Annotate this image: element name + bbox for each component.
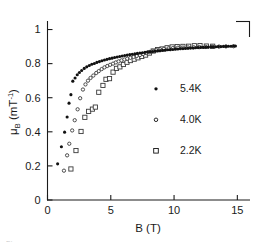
data-point xyxy=(84,83,87,86)
caption-strip: Figure xyxy=(6,232,156,242)
data-point xyxy=(68,142,71,145)
data-point xyxy=(154,87,157,90)
data-point xyxy=(71,129,74,132)
data-point xyxy=(62,169,65,172)
legend-item[interactable]: 5.4K xyxy=(154,82,201,94)
series-5-4K xyxy=(56,45,237,166)
data-point xyxy=(107,77,111,81)
data-point xyxy=(154,118,158,122)
data-point xyxy=(69,167,73,171)
y-axis-ticks xyxy=(48,30,53,200)
x-axis-tick-labels: 051015 xyxy=(44,204,243,216)
y-tick-label: 0.8 xyxy=(25,57,40,69)
data-point xyxy=(92,74,95,77)
data-point xyxy=(83,115,87,119)
x-axis-ticks xyxy=(48,195,238,200)
data-point xyxy=(80,69,83,72)
legend-label: 4.0K xyxy=(180,113,202,125)
data-point xyxy=(234,45,237,48)
data-point xyxy=(60,145,63,148)
y-tick-label: 0.6 xyxy=(25,92,40,104)
data-point xyxy=(97,90,101,94)
data-point xyxy=(79,97,82,100)
legend-item[interactable]: 4.0K xyxy=(154,113,201,125)
data-point xyxy=(65,154,68,157)
figure-panel: 00.20.40.60.81 051015 B (T) μB (mT-1) 5.… xyxy=(0,0,266,246)
y-tick-label: 0.2 xyxy=(25,160,40,172)
data-point xyxy=(101,83,105,87)
scatter-plot: 00.20.40.60.81 051015 B (T) μB (mT-1) 5.… xyxy=(0,0,266,246)
x-tick-label: 10 xyxy=(168,204,180,216)
data-point xyxy=(76,108,79,111)
data-point xyxy=(73,119,76,122)
data-point xyxy=(63,131,66,134)
y-axis-title: μB (mT-1) xyxy=(6,89,22,135)
y-tick-label: 1 xyxy=(34,23,40,35)
x-tick-label: 5 xyxy=(108,204,114,216)
series-4-0K xyxy=(62,45,235,173)
data-point xyxy=(71,80,74,83)
svg-text:μB (mT-1): μB (mT-1) xyxy=(6,89,22,135)
legend-label: 2.2K xyxy=(180,144,202,156)
legend-label: 5.4K xyxy=(180,82,202,94)
caption-fragment: Figure xyxy=(6,240,28,242)
y-axis-tick-labels: 00.20.40.60.81 xyxy=(25,23,40,205)
data-point xyxy=(74,148,78,152)
x-tick-label: 0 xyxy=(44,204,50,216)
y-tick-label: 0.4 xyxy=(25,126,40,138)
legend-item[interactable]: 2.2K xyxy=(154,144,202,156)
legend: 5.4K4.0K2.2K xyxy=(154,82,202,156)
data-point xyxy=(81,88,84,91)
data-point xyxy=(56,162,59,165)
data-point xyxy=(67,102,70,105)
data-point xyxy=(69,93,72,96)
x-tick-label: 15 xyxy=(231,204,243,216)
data-point xyxy=(93,105,97,109)
y-tick-label: 0 xyxy=(34,194,40,206)
data-point xyxy=(74,76,77,79)
data-point xyxy=(154,149,159,154)
data-point xyxy=(79,129,83,133)
data-point xyxy=(66,115,69,118)
